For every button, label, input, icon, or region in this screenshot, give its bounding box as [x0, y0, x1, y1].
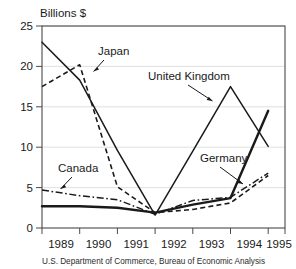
x-tick-label-1990: 1990: [86, 238, 112, 250]
y-tick-label-5: 5: [27, 182, 33, 194]
y-tick-label-10: 10: [20, 141, 33, 153]
x-tick-label-1992: 1992: [161, 238, 187, 250]
x-tick-label-1991: 1991: [123, 238, 149, 250]
annotation-label-germany: Germany: [200, 152, 248, 164]
y-axis-title: Billions $: [40, 7, 87, 19]
y-tick-label-0: 0: [27, 222, 33, 234]
chart-figure: Billions $ 25 20 15 10 5 0 1989 1990 199…: [0, 0, 296, 269]
y-tick-label-25: 25: [20, 20, 33, 32]
x-tick-label-1995: 1995: [266, 238, 292, 250]
y-tick-label-15: 15: [20, 101, 33, 113]
annotation-label-canada: Canada: [58, 162, 99, 174]
source-note: U.S. Department of Commerce, Bureau of E…: [42, 257, 265, 266]
x-tick-label-1994: 1994: [237, 238, 263, 250]
x-tick-label-1993: 1993: [199, 238, 225, 250]
line-chart: Billions $ 25 20 15 10 5 0 1989 1990 199…: [0, 0, 296, 269]
plot-area-background: [42, 26, 285, 228]
annotation-label-japan: Japan: [98, 45, 129, 57]
x-tick-label-1989: 1989: [48, 238, 74, 250]
y-tick-label-20: 20: [20, 60, 33, 72]
x-axis-ticks: [42, 228, 285, 234]
annotation-label-united-kingdom: United Kingdom: [148, 70, 230, 82]
y-axis-ticks: [36, 26, 42, 228]
